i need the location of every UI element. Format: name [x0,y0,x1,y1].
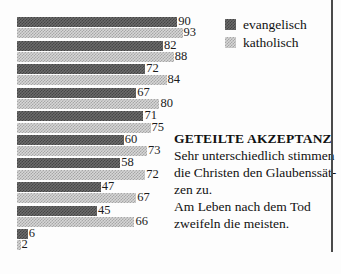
legend-label-katholisch: katholisch [243,37,299,48]
bar-value-label: 47 [102,181,115,192]
evangelisch-swatch-icon [225,19,236,30]
vertical-rule [331,0,333,252]
legend-item-katholisch: katholisch [225,37,307,48]
bar-pair: 6780 [17,88,196,109]
bar-row: 71 [17,111,196,121]
katholisch-swatch-icon [225,37,236,48]
bar-pair: 9093 [17,17,196,38]
bar-pair: 4767 [17,182,196,203]
bar-row: 80 [17,99,196,109]
bar-katholisch [17,99,159,109]
bar-pair: 62 [17,229,196,250]
bar-katholisch [17,193,136,203]
bar-evangelisch [17,17,177,27]
bar-pair: 4566 [17,206,196,227]
bar-evangelisch [17,182,101,192]
annotation-line: Am Leben nach dem Tod [174,198,336,215]
bar-evangelisch [17,111,143,121]
bar-row: 88 [17,52,196,62]
bar-katholisch [17,240,21,250]
bar-row: 82 [17,41,196,51]
legend-label-evangelisch: evangelisch [243,19,307,30]
bar-value-label: 66 [135,216,148,227]
bar-value-label: 2 [22,239,28,250]
bar-row: 45 [17,206,196,216]
bar-value-label: 72 [146,63,159,74]
bar-evangelisch [17,88,136,98]
bar-evangelisch [17,206,97,216]
annotation-line: die Christen den Glaubenssät- [174,164,336,181]
bar-row: 60 [17,135,196,145]
bar-pair: 6073 [17,135,196,156]
bar-value-label: 75 [152,122,165,133]
bar-value-label: 67 [137,192,150,203]
bar-value-label: 60 [125,134,138,145]
bar-pair: 7284 [17,64,196,85]
legend-item-evangelisch: evangelisch [225,19,307,30]
bar-pair: 7175 [17,111,196,132]
bar-row: 58 [17,158,196,168]
bar-row: 66 [17,217,196,227]
legend: evangelisch katholisch [225,19,307,55]
bar-row: 6 [17,229,196,239]
bar-pair: 8288 [17,41,196,62]
annotation-title: GETEILTE AKZEPTANZ [174,130,336,147]
bar-katholisch [17,170,145,180]
figure: 90938288728467807175607358724767456662 e… [0,0,341,274]
bar-value-label: 88 [175,51,188,62]
bar-value-label: 67 [137,87,150,98]
annotation-block: GETEILTE AKZEPTANZ Sehr unterschiedlich … [174,130,336,232]
bar-row: 84 [17,75,196,85]
bar-value-label: 80 [160,98,173,109]
bar-katholisch [17,28,183,38]
bar-value-label: 93 [184,27,197,38]
bar-evangelisch [17,158,120,168]
bar-value-label: 84 [168,74,181,85]
bar-katholisch [17,123,151,133]
bar-row: 47 [17,182,196,192]
bar-evangelisch [17,135,124,145]
bar-value-label: 73 [148,145,161,156]
bar-value-label: 72 [146,169,159,180]
bar-row: 90 [17,17,196,27]
annotation-line: zen zu. [174,181,336,198]
bar-row: 73 [17,146,196,156]
bar-evangelisch [17,64,145,74]
bar-value-label: 45 [98,205,111,216]
bar-row: 67 [17,193,196,203]
annotation-line: zweifeln die meisten. [174,215,336,232]
bar-pair: 5872 [17,158,196,179]
bar-row: 93 [17,28,196,38]
bar-evangelisch [17,41,163,51]
bar-katholisch [17,75,167,85]
bar-value-label: 6 [29,228,35,239]
bar-chart: 90938288728467807175607358724767456662 [17,17,196,253]
bar-row: 75 [17,123,196,133]
bar-row: 2 [17,240,196,250]
annotation-line: Sehr unterschiedlich stimmen [174,147,336,164]
bar-value-label: 58 [121,157,134,168]
